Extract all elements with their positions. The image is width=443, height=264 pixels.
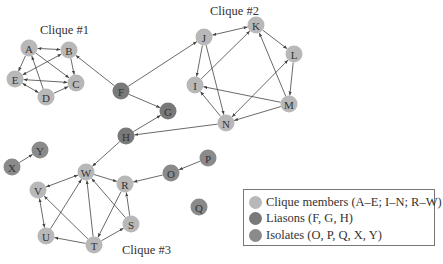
node-t: T [86, 237, 103, 254]
node-label: F [118, 86, 124, 98]
edge-b-c [71, 58, 74, 74]
edge-a-e [19, 56, 26, 72]
node-label: H [122, 131, 130, 143]
node-label: A [25, 43, 33, 55]
isolate-swatch-icon [249, 229, 262, 242]
node-label: O [167, 168, 175, 180]
edge-n-l [232, 60, 288, 117]
edge-n-h [134, 124, 217, 135]
edge-j-i [197, 45, 203, 76]
node-label: E [12, 74, 19, 86]
node-f: F [113, 83, 130, 100]
legend-label: Liasons (F, G, H) [266, 211, 353, 226]
node-label: K [252, 20, 260, 32]
node-label: X [8, 162, 16, 174]
node-k: K [248, 17, 265, 34]
edge-t-s [101, 228, 123, 241]
node-e: E [7, 71, 24, 88]
edge-t-u [54, 238, 85, 244]
node-a: A [21, 40, 38, 57]
node-label: L [291, 49, 298, 61]
node-label: P [205, 153, 211, 165]
edge-m-i [203, 87, 280, 103]
edge-s-r [126, 192, 129, 215]
node-g: G [160, 103, 177, 120]
node-label: B [65, 45, 72, 57]
node-s: S [123, 216, 140, 233]
node-label: J [202, 32, 207, 44]
edge-h-w [92, 142, 119, 167]
clique-caption: Clique #1 [40, 23, 89, 37]
node-w: W [78, 164, 95, 181]
edge-h-g [133, 115, 160, 131]
node-r: R [117, 176, 134, 193]
edge-j-n [206, 45, 224, 115]
edge-n-i [200, 92, 220, 117]
legend-label: Clique members (A–E; I–N; R–W) [266, 195, 442, 210]
node-u: U [38, 228, 55, 245]
node-y: Y [32, 142, 49, 159]
clique-swatch-icon [249, 196, 262, 209]
edge-k-l [263, 30, 287, 49]
edge-f-j [128, 42, 197, 87]
legend-item-liaisons: Liasons (F, G, H) [249, 211, 434, 228]
node-n: N [218, 115, 235, 132]
node-h: H [118, 128, 135, 145]
node-label: G [164, 106, 172, 118]
node-l: L [286, 46, 303, 63]
edge-t-w [87, 180, 93, 236]
edge-e-b [23, 54, 62, 75]
node-label: Y [36, 145, 44, 157]
node-q: Q [191, 199, 208, 216]
node-label: N [222, 118, 230, 130]
node-label: D [42, 92, 50, 104]
edge-x-y [19, 154, 32, 162]
node-label: I [193, 80, 197, 92]
clique-caption: Clique #2 [210, 4, 259, 18]
liaison-swatch-icon [249, 212, 262, 225]
edge-v-u [40, 198, 45, 227]
node-label: R [121, 179, 129, 191]
edge-r-t [98, 192, 121, 238]
edge-f-g [129, 94, 160, 107]
legend-label: Isolates (O, P, Q, X, Y) [266, 228, 382, 243]
edge-o-r [133, 175, 162, 182]
node-o: O [163, 165, 180, 182]
edge-a-b [38, 48, 61, 49]
node-c: C [68, 75, 85, 92]
node-i: I [187, 77, 204, 94]
node-p: P [200, 150, 217, 167]
edge-k-j [212, 27, 247, 35]
node-m: M [281, 96, 298, 113]
node-label: U [42, 231, 50, 243]
legend: Clique members (A–E; I–N; R–W) Liasons (… [243, 189, 435, 246]
node-v: V [30, 182, 47, 199]
edge-d-a [32, 56, 43, 89]
edge-p-o [179, 161, 200, 170]
legend-item-isolates: Isolates (O, P, Q, X, Y) [249, 227, 434, 244]
edge-d-e [22, 83, 38, 92]
edge-u-w [51, 179, 82, 229]
node-label: C [72, 78, 79, 90]
node-j: J [196, 29, 213, 46]
clique-caption: Clique #3 [122, 243, 171, 257]
node-label: M [284, 99, 294, 111]
node-x: X [4, 159, 21, 176]
edge-m-k [259, 33, 285, 96]
edge-w-v [46, 175, 78, 187]
edge-w-r [94, 175, 117, 182]
node-d: D [38, 89, 55, 106]
node-label: S [128, 219, 134, 231]
edge-l-m [290, 63, 293, 96]
node-label: T [91, 240, 98, 252]
node-label: W [81, 167, 92, 179]
node-label: V [34, 185, 42, 197]
edge-m-n [234, 107, 281, 121]
legend-item-clique-members: Clique members (A–E; I–N; R–W) [249, 194, 434, 211]
node-b: B [61, 42, 78, 59]
edge-c-e [24, 80, 68, 83]
edge-d-c [54, 87, 69, 94]
node-label: Q [195, 202, 203, 214]
